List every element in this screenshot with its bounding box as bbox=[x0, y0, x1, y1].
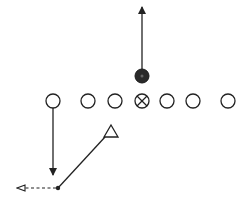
defender-triangle bbox=[104, 125, 118, 137]
player-circle bbox=[186, 94, 200, 108]
pivot-dot bbox=[56, 186, 60, 190]
route-diagonal bbox=[58, 137, 105, 188]
player-circle bbox=[221, 94, 235, 108]
player-circle bbox=[108, 94, 122, 108]
player-circle bbox=[46, 94, 60, 108]
offensive-line bbox=[46, 94, 235, 108]
play-diagram bbox=[0, 0, 249, 207]
player-circle bbox=[160, 94, 174, 108]
ball-carrier bbox=[135, 69, 149, 83]
player-circle bbox=[81, 94, 95, 108]
center-player-x bbox=[135, 94, 149, 108]
